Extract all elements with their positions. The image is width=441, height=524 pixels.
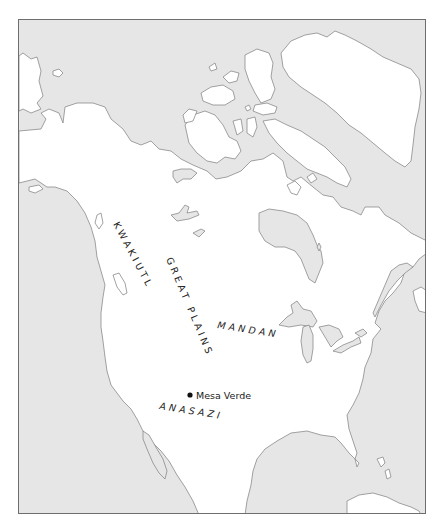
map-frame: KWAKIUTL GREAT PLAINS MANDAN ANASAZI Mes… bbox=[18, 19, 426, 514]
site-label-mesa-verde: Mesa Verde bbox=[196, 390, 251, 401]
north-america-map: KWAKIUTL GREAT PLAINS MANDAN ANASAZI Mes… bbox=[19, 20, 426, 514]
site-marker-mesa-verde: Mesa Verde bbox=[187, 390, 251, 401]
filled-circle-icon bbox=[187, 392, 192, 397]
